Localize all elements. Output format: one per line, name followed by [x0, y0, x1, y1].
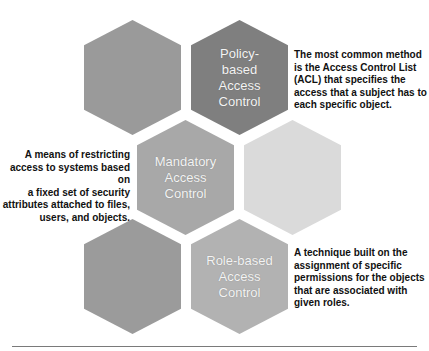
- role-label-line: Control: [206, 285, 273, 301]
- mandatory-description-line: a fixed set of security: [0, 187, 130, 200]
- policy-description-line: each specific object.: [294, 99, 429, 112]
- role-label-line: Access: [206, 269, 273, 285]
- hexagon-mandatory-access-control: Mandatory Access Control: [137, 120, 234, 235]
- hexagon-middle-right: [244, 120, 341, 235]
- policy-label-line: Control: [219, 94, 261, 110]
- policy-label-line: Policy-: [219, 46, 261, 62]
- policy-description-line: (ACL) that specifies the: [294, 74, 429, 87]
- hexagon-bottom-left: [84, 219, 181, 334]
- mandatory-label-line: Control: [155, 186, 216, 202]
- mandatory-label-line: Access: [155, 170, 216, 186]
- policy-description-line: is the Access Control List: [294, 62, 429, 75]
- mandatory-description: A means of restricting access to systems…: [0, 149, 130, 224]
- policy-hex-label: Policy- based Access Control: [219, 46, 261, 110]
- mandatory-description-line: access to systems based on: [0, 162, 130, 187]
- mandatory-description-line: users, and objects.: [0, 212, 130, 225]
- hexagon-top-left: [84, 20, 181, 135]
- mandatory-description-line: attributes attached to files,: [0, 199, 130, 212]
- role-description-line: permissions for the objects: [294, 272, 429, 285]
- role-description-line: A technique built on the: [294, 247, 429, 260]
- role-description-line: given roles.: [294, 297, 429, 310]
- role-description-line: that are associated with: [294, 285, 429, 298]
- mandatory-hex-label: Mandatory Access Control: [155, 154, 216, 202]
- policy-label-line: Access: [219, 78, 261, 94]
- policy-description-line: The most common method: [294, 49, 429, 62]
- policy-description: The most common method is the Access Con…: [294, 49, 429, 112]
- policy-label-line: based: [219, 62, 261, 78]
- hexagon-policy-based-access-control: Policy- based Access Control: [191, 20, 288, 135]
- hexagon-role-based-access-control: Role-based Access Control: [191, 219, 288, 334]
- policy-description-line: access that a subject has to: [294, 87, 429, 100]
- mandatory-description-line: A means of restricting: [0, 149, 130, 162]
- bottom-divider: [12, 346, 417, 347]
- role-label-line: Role-based: [206, 253, 273, 269]
- role-hex-label: Role-based Access Control: [206, 253, 273, 301]
- role-description: A technique built on the assignment of s…: [294, 247, 429, 310]
- mandatory-label-line: Mandatory: [155, 154, 216, 170]
- role-description-line: assignment of specific: [294, 260, 429, 273]
